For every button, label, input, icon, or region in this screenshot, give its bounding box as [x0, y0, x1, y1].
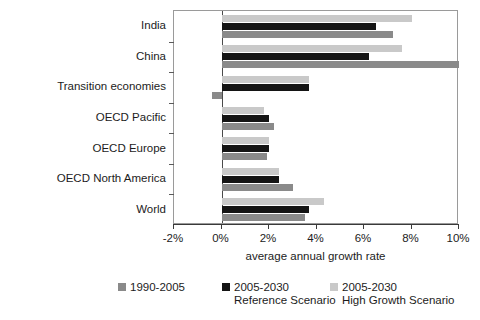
bar-transition-economies-series-3: [212, 92, 222, 99]
bar-india-series-2: [222, 23, 376, 30]
x-axis-tick-label: 0%: [198, 232, 244, 245]
y-axis-tick: [169, 194, 174, 195]
legend-label-1990-2005: 1990-2005: [130, 281, 185, 294]
legend-item-reference-scenario: 2005-2030 Reference Scenario: [222, 281, 336, 307]
y-axis-tick: [169, 133, 174, 134]
bar-oecd-north-america-series-2: [222, 176, 279, 183]
bar-oecd-pacific-series-2: [222, 115, 270, 122]
bar-transition-economies-series-2: [222, 84, 310, 91]
bar-china-series-2: [222, 53, 369, 60]
x-axis-tick-label: -2%: [150, 232, 196, 245]
x-axis-tick: [316, 224, 317, 229]
x-axis-tick-label: 6%: [340, 232, 386, 245]
category-label-india: India: [0, 19, 166, 31]
category-label-transition-economies: Transition economies: [0, 80, 166, 92]
legend-label-high-growth-scenario: 2005-2030 High Growth Scenario: [342, 281, 455, 307]
y-axis-tick: [169, 72, 174, 73]
bar-india-series-3: [222, 31, 393, 38]
x-axis-tick: [268, 224, 269, 229]
bar-world-series-1: [222, 198, 324, 205]
legend-item-1990-2005: 1990-2005: [118, 281, 185, 294]
plot-area: [173, 10, 458, 224]
bar-oecd-north-america-series-3: [222, 184, 293, 191]
y-axis-tick: [169, 103, 174, 104]
x-axis-line: [173, 224, 458, 225]
x-axis-tick-label: 8%: [388, 232, 434, 245]
x-axis-tick: [221, 224, 222, 229]
bar-world-series-3: [222, 214, 305, 221]
x-axis-tick-label: 2%: [245, 232, 291, 245]
bar-china-series-3: [222, 61, 460, 68]
legend-swatch-1990-2005: [118, 283, 126, 291]
bar-oecd-europe-series-3: [222, 153, 267, 160]
y-axis-tick: [169, 42, 174, 43]
bar-india-series-1: [222, 15, 412, 22]
category-label-china: China: [0, 50, 166, 62]
x-axis-tick: [411, 224, 412, 229]
bar-oecd-pacific-series-1: [222, 107, 265, 114]
y-axis-tick: [169, 164, 174, 165]
x-axis-title: average annual growth rate: [173, 250, 458, 262]
bar-china-series-1: [222, 45, 403, 52]
category-label-oecd-north-america: OECD North America: [0, 172, 166, 184]
legend-label-reference-scenario: 2005-2030 Reference Scenario: [234, 281, 336, 307]
bar-oecd-europe-series-1: [222, 137, 270, 144]
category-axis-labels: IndiaChinaTransition economiesOECD Pacif…: [0, 0, 168, 320]
bar-oecd-north-america-series-1: [222, 168, 279, 175]
category-label-world: World: [0, 203, 166, 215]
x-axis-tick-label: 4%: [293, 232, 339, 245]
bar-transition-economies-series-1: [222, 76, 310, 83]
x-axis-tick: [363, 224, 364, 229]
bar-oecd-pacific-series-3: [222, 123, 274, 130]
bar-oecd-europe-series-2: [222, 145, 270, 152]
chart-legend: 1990-2005 2005-2030 Reference Scenario 2…: [118, 281, 478, 317]
x-axis-tick-label: 10%: [435, 232, 480, 245]
legend-swatch-high-growth-scenario: [330, 283, 338, 291]
x-axis-tick: [173, 224, 174, 229]
category-label-oecd-pacific: OECD Pacific: [0, 111, 166, 123]
growth-rate-bar-chart: IndiaChinaTransition economiesOECD Pacif…: [0, 0, 480, 320]
legend-swatch-reference-scenario: [222, 283, 230, 291]
bar-world-series-2: [222, 206, 310, 213]
category-label-oecd-europe: OECD Europe: [0, 142, 166, 154]
legend-item-high-growth-scenario: 2005-2030 High Growth Scenario: [330, 281, 455, 307]
x-axis-tick: [458, 224, 459, 229]
